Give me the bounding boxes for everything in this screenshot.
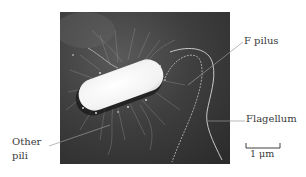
scale-bar-label: 1 μm <box>250 148 274 160</box>
other-pili-label-line2: pili <box>12 149 41 163</box>
other-pili-label-line1: Other <box>12 135 41 149</box>
other-pili-label: Other pili <box>12 135 41 163</box>
labeled-micrograph-figure: F pilus Flagellum Other pili 1 μm <box>0 0 306 177</box>
flagellum-label: Flagellum <box>246 113 297 125</box>
f-pilus-label: F pilus <box>244 35 279 47</box>
